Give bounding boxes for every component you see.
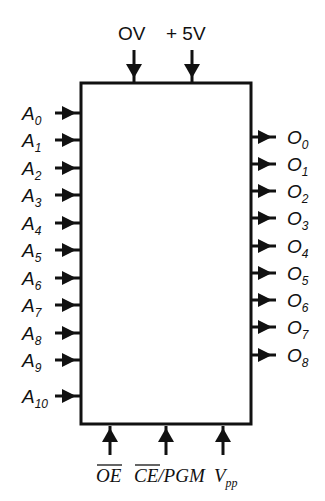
- address-pin-label: A6: [21, 268, 42, 293]
- address-pin-label: A7: [21, 295, 43, 320]
- output-pin-label: O8: [287, 345, 309, 370]
- address-pin: A8: [21, 323, 80, 348]
- output-pin: O5: [252, 263, 309, 288]
- address-pin: A1: [21, 130, 80, 155]
- output-pin-label: O7: [287, 317, 310, 342]
- output-pin: O1: [252, 154, 308, 179]
- address-pin: A4: [21, 213, 80, 238]
- address-pin: A0: [21, 103, 80, 128]
- output-pin: O7: [252, 317, 310, 342]
- address-pin: A2: [21, 158, 80, 183]
- address-pin-label: A4: [21, 213, 42, 238]
- output-pin-label: O5: [287, 263, 309, 288]
- address-pin: A6: [21, 268, 80, 293]
- address-pin-label: A9: [21, 350, 42, 375]
- bottom-pins: OE CE/PGM Vpp: [96, 426, 238, 490]
- eprom-pinout-diagram: OV + 5V A0A1A2A3A4A5A6A7A8A9A10 O0O1O2O3…: [0, 0, 325, 501]
- output-pin-label: O1: [287, 154, 308, 179]
- pin-label-vpp: Vpp: [214, 465, 238, 490]
- address-pin: A9: [21, 350, 80, 375]
- pin-ce-pgm: CE/PGM: [134, 426, 206, 486]
- output-pin-label: O2: [287, 181, 309, 206]
- address-pin: A5: [21, 240, 80, 265]
- output-pin-label: O0: [287, 127, 309, 152]
- output-pin: O4: [252, 236, 309, 261]
- output-pin-label: O6: [287, 290, 309, 315]
- pin-5v: + 5V: [166, 23, 206, 82]
- pin-label-oe: OE: [96, 465, 122, 486]
- output-pin: O8: [252, 345, 309, 370]
- address-pin-label: A5: [21, 240, 42, 265]
- pin-0v: OV: [118, 23, 146, 82]
- pin-oe: OE: [96, 426, 122, 486]
- output-pin: O6: [252, 290, 309, 315]
- address-pins: A0A1A2A3A4A5A6A7A8A9A10: [21, 103, 80, 411]
- pin-label-ce-pgm: CE/PGM: [134, 465, 206, 486]
- output-pin: O2: [252, 181, 309, 206]
- pin-label-0v: OV: [118, 23, 146, 44]
- address-pin: A7: [21, 295, 80, 320]
- address-pin-label: A10: [21, 386, 48, 411]
- pin-vpp: Vpp: [214, 426, 238, 490]
- output-pin-label: O3: [287, 208, 309, 233]
- output-pins: O0O1O2O3O4O5O6O7O8: [252, 127, 310, 370]
- output-pin: O3: [252, 208, 309, 233]
- pin-label-5v: + 5V: [166, 23, 206, 44]
- chip-body: [81, 83, 251, 424]
- output-pin: O0: [252, 127, 309, 152]
- address-pin-label: A8: [21, 323, 42, 348]
- top-pins: OV + 5V: [118, 23, 206, 82]
- address-pin-label: A1: [21, 130, 41, 155]
- address-pin-label: A0: [21, 103, 42, 128]
- output-pin-label: O4: [287, 236, 309, 261]
- address-pin: A10: [21, 386, 80, 411]
- address-pin: A3: [21, 185, 80, 210]
- address-pin-label: A3: [21, 185, 42, 210]
- address-pin-label: A2: [21, 158, 42, 183]
